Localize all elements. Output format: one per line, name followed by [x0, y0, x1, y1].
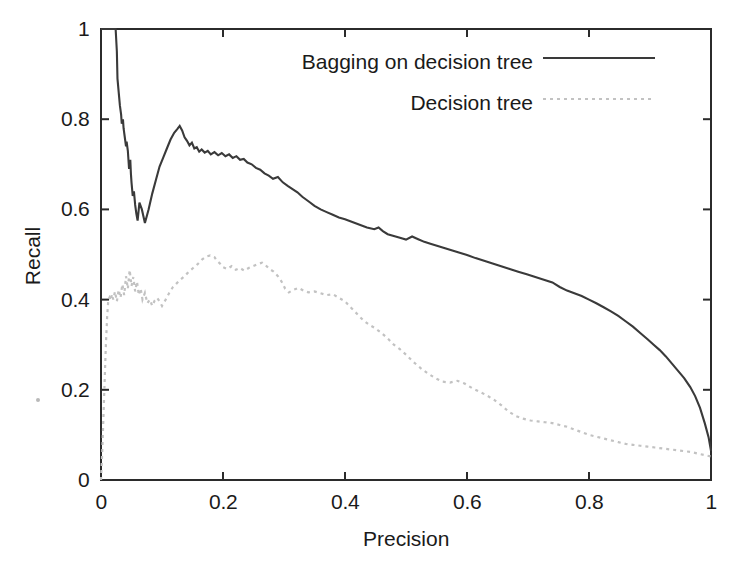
y-tick-label: 0.6: [61, 197, 89, 221]
x-tick-label: 0.4: [331, 490, 359, 514]
y-axis-title-wrapper: Recall: [18, 196, 48, 316]
series-line-decision-tree: [101, 255, 711, 480]
x-tick-label: 1: [706, 490, 717, 514]
data-series-group: [101, 29, 711, 480]
x-tick-label: 0.8: [575, 490, 603, 514]
y-axis-title: Recall: [21, 227, 45, 285]
y-tick-label: 0.4: [61, 288, 89, 312]
x-tick-label: 0.2: [209, 490, 237, 514]
y-tick-label: 0.2: [61, 378, 89, 402]
precision-recall-chart-figure: 0 0.2 0.4 0.6 0.8 1 0 0.2 0.4 0.6 0.8 1 …: [0, 0, 748, 569]
y-tick-label: 0: [78, 468, 89, 492]
plot-frame: [101, 29, 711, 480]
scan-artifact-speck: [36, 398, 40, 402]
legend-entry-bagging-on-decision-tree: Bagging on decision tree: [302, 50, 533, 74]
plot-canvas: [0, 0, 748, 569]
x-tick-label: 0.6: [453, 490, 481, 514]
y-tick-label: 1: [78, 17, 89, 41]
axis-ticks: [101, 29, 711, 480]
x-tick-label: 0: [96, 490, 107, 514]
y-tick-label: 0.8: [61, 107, 89, 131]
x-axis-title: Precision: [363, 527, 449, 551]
legend-swatches: [543, 58, 655, 99]
series-line-bagging-on-decision-tree: [101, 29, 711, 451]
legend-entry-decision-tree: Decision tree: [410, 91, 533, 115]
